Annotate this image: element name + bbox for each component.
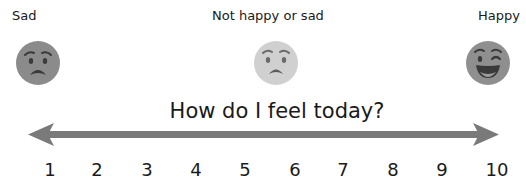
label-neutral: Not happy or sad xyxy=(212,8,324,24)
scale-number-3: 3 xyxy=(141,159,152,181)
sad-face-icon xyxy=(15,40,61,86)
scale-number-8: 8 xyxy=(387,159,398,181)
neutral-face-icon xyxy=(253,40,299,86)
scale-number-4: 4 xyxy=(190,159,201,181)
scale-number-6: 6 xyxy=(289,159,300,181)
scale-number-9: 9 xyxy=(436,159,447,181)
label-sad: Sad xyxy=(12,8,36,24)
scale-number-7: 7 xyxy=(337,159,348,181)
double-headed-arrow-icon xyxy=(0,118,526,152)
happy-face-icon xyxy=(465,40,511,86)
scale-number-2: 2 xyxy=(91,159,102,181)
scale-number-10: 10 xyxy=(486,159,509,181)
scale-number-5: 5 xyxy=(239,159,250,181)
scale-number-1: 1 xyxy=(44,159,55,181)
label-happy: Happy xyxy=(478,8,520,24)
